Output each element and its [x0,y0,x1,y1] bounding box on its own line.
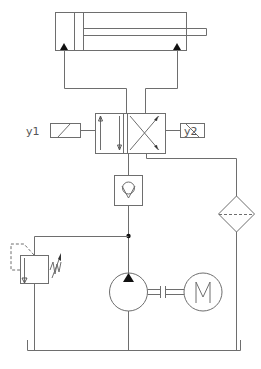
pump [110,273,148,350]
cylinder [56,13,207,51]
filter [219,196,255,350]
solenoid-label-y1: y1 [26,125,40,138]
hydraulic-diagram [0,0,261,369]
port-triangle-right-icon [173,43,181,50]
tank [28,340,241,351]
relief-valve [11,244,61,350]
directional-valve [51,114,205,154]
pump-triangle-icon [123,273,134,282]
motor [184,273,222,311]
shaft-coupling [148,286,185,298]
solenoid-label-y2: y2 [184,125,198,138]
port-triangle-left-icon [60,43,68,50]
check-valve [115,176,143,206]
solenoid-y1 [51,124,81,138]
